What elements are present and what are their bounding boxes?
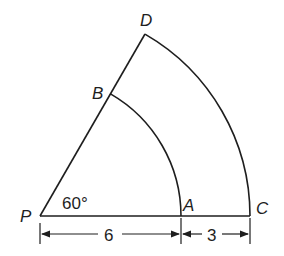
arc-ab bbox=[111, 94, 182, 216]
arrow-right-icon bbox=[171, 231, 180, 238]
dimension-pa-label: 6 bbox=[104, 226, 113, 245]
annular-sector-diagram: P A B C D 60° 6 3 bbox=[0, 0, 284, 256]
dimension-ac-label: 3 bbox=[207, 226, 216, 245]
arrow-left-icon bbox=[41, 231, 50, 238]
segment-pd bbox=[40, 34, 145, 216]
arc-cd bbox=[145, 34, 250, 216]
arrow-right-icon bbox=[240, 231, 249, 238]
point-label-b: B bbox=[92, 84, 103, 103]
point-label-d: D bbox=[140, 11, 152, 30]
point-label-c: C bbox=[256, 199, 269, 218]
arrow-left-icon bbox=[182, 231, 191, 238]
angle-label: 60° bbox=[62, 194, 88, 213]
point-label-a: A bbox=[182, 196, 194, 215]
point-label-p: P bbox=[20, 207, 32, 226]
